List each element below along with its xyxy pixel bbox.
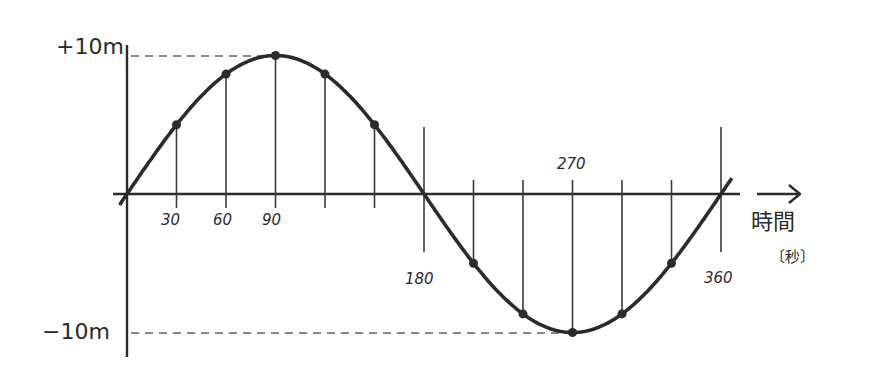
data-point-150 bbox=[370, 120, 379, 129]
sine-wave-diagram: +10m −10m 30 60 90 180 270 360 時間 〔秒〕 bbox=[0, 0, 871, 376]
data-point-240 bbox=[519, 309, 528, 318]
tick-label-360: 360 bbox=[704, 271, 733, 286]
x-axis-title: 時間 bbox=[751, 211, 795, 233]
tick-label-180: 180 bbox=[405, 272, 434, 287]
data-point-210 bbox=[469, 259, 478, 268]
y-max-label: +10m bbox=[56, 36, 124, 58]
y-min-label: −10m bbox=[42, 321, 110, 343]
data-point-330 bbox=[667, 259, 676, 268]
tick-label-30: 30 bbox=[161, 213, 180, 228]
x-axis-unit: 〔秒〕 bbox=[770, 250, 815, 265]
data-point-60 bbox=[222, 70, 231, 79]
data-point-270 bbox=[568, 328, 577, 337]
data-point-300 bbox=[618, 309, 627, 318]
data-point-30 bbox=[172, 120, 181, 129]
tick-label-90: 90 bbox=[262, 213, 281, 228]
x-axis-arrow-icon bbox=[757, 185, 800, 203]
data-point-90 bbox=[271, 51, 280, 60]
data-point-120 bbox=[321, 70, 330, 79]
tick-label-270: 270 bbox=[557, 157, 586, 172]
tick-label-60: 60 bbox=[213, 213, 232, 228]
plot-area bbox=[0, 0, 871, 376]
